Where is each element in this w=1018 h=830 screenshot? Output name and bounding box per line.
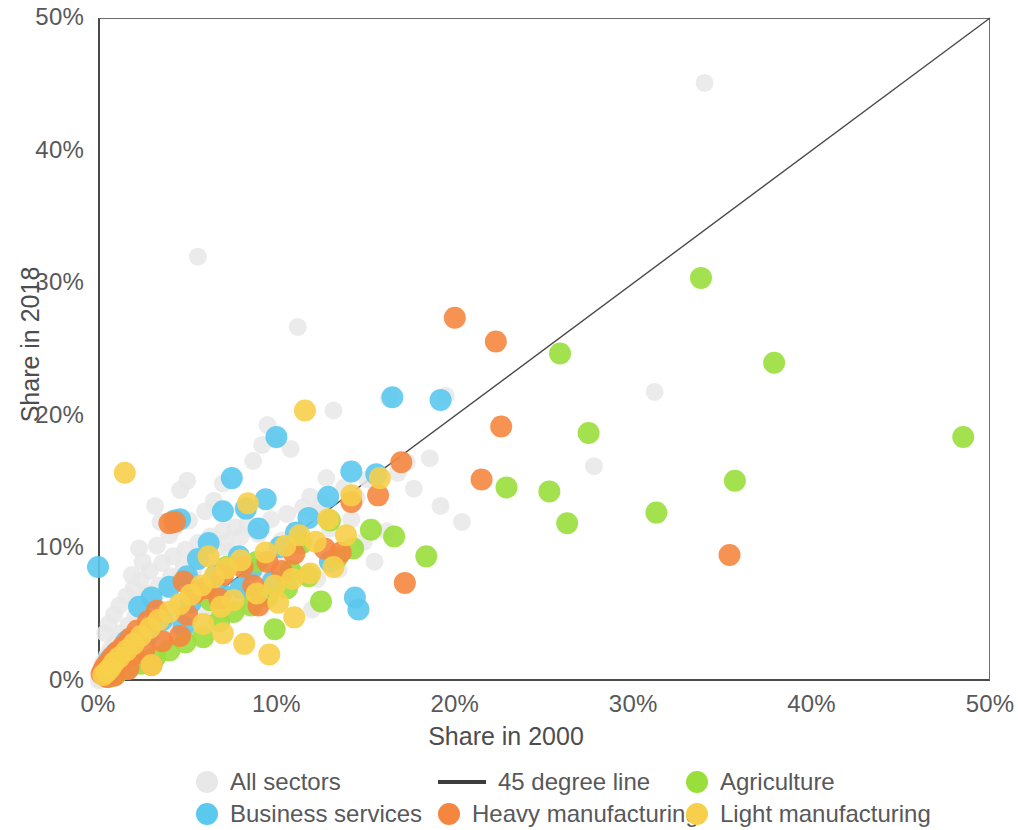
x-tick-label: 0% bbox=[43, 690, 153, 718]
x-tick-label: 20% bbox=[400, 690, 510, 718]
legend-item-all-sectors[interactable]: All sectors bbox=[196, 766, 438, 798]
legend-item-heavy-manufacturing[interactable]: Heavy manufacturing bbox=[438, 798, 686, 830]
legend-label: 45 degree line bbox=[498, 768, 650, 796]
legend-dot-marker bbox=[686, 803, 708, 825]
plot-area bbox=[98, 18, 990, 681]
legend-line-marker bbox=[438, 780, 486, 784]
y-tick-label: 40% bbox=[4, 136, 84, 164]
x-tick-label: 30% bbox=[578, 690, 688, 718]
legend-label: All sectors bbox=[230, 768, 341, 796]
x-tick-label: 10% bbox=[221, 690, 331, 718]
legend-label: Business services bbox=[230, 800, 422, 828]
legend-label: Agriculture bbox=[720, 768, 835, 796]
legend-dot-marker bbox=[438, 803, 460, 825]
legend-item-45-degree-line[interactable]: 45 degree line bbox=[438, 766, 686, 798]
x-axis-title: Share in 2000 bbox=[0, 722, 1012, 751]
legend-row: All sectors45 degree lineAgriculture bbox=[196, 766, 996, 798]
x-tick-label: 50% bbox=[935, 690, 1018, 718]
legend-item-business-services[interactable]: Business services bbox=[196, 798, 438, 830]
legend-dot-marker bbox=[196, 771, 218, 793]
legend-dot-marker bbox=[686, 771, 708, 793]
legend-row: Business servicesHeavy manufacturingLigh… bbox=[196, 798, 996, 830]
y-axis-title: Share in 2018 bbox=[16, 230, 45, 460]
legend-label: Heavy manufacturing bbox=[472, 800, 699, 828]
y-tick-label: 10% bbox=[4, 533, 84, 561]
legend-item-light-manufacturing[interactable]: Light manufacturing bbox=[686, 798, 946, 830]
legend-item-agriculture[interactable]: Agriculture bbox=[686, 766, 946, 798]
y-tick-label: 50% bbox=[4, 3, 84, 31]
legend-dot-marker bbox=[196, 803, 218, 825]
chart-legend: All sectors45 degree lineAgricultureBusi… bbox=[196, 766, 996, 830]
x-tick-label: 40% bbox=[757, 690, 867, 718]
legend-label: Light manufacturing bbox=[720, 800, 931, 828]
